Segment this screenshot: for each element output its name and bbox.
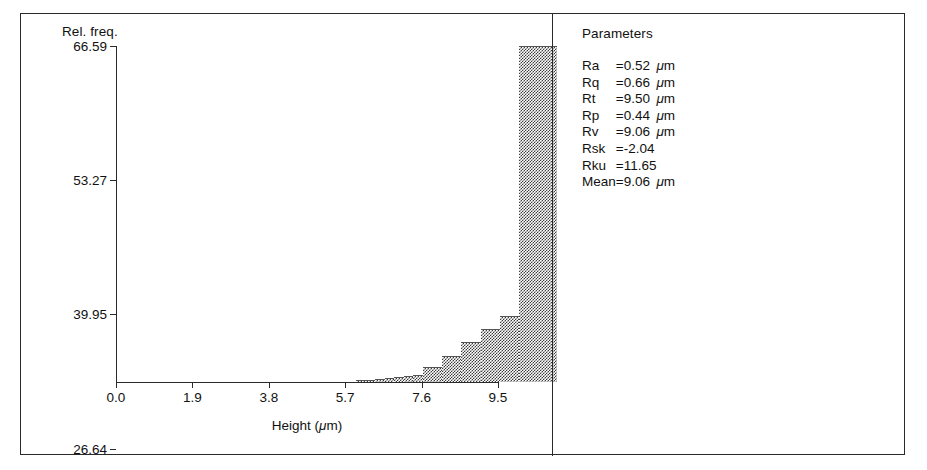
table-row: Rku = 11.65	[582, 158, 675, 175]
mu-symbol: μ	[656, 108, 663, 123]
param-value: 9.06	[624, 124, 657, 141]
x-axis-title-unit: m)	[326, 418, 342, 433]
histogram-bar	[404, 376, 414, 382]
table-row: Rt = 9.50 μm	[582, 91, 675, 108]
param-unit	[656, 158, 675, 175]
param-name: Rp	[582, 108, 616, 125]
histogram-chart-panel: Rel. freq. 66.59 53.27 39.95 26.64	[21, 14, 552, 456]
x-tick-mark	[498, 382, 499, 388]
x-axis-line	[116, 382, 499, 383]
param-equals: =	[616, 174, 624, 191]
table-row: Mean = 9.06 μm	[582, 174, 675, 191]
param-unit-text: m	[664, 75, 675, 90]
param-unit-text: m	[664, 108, 675, 123]
param-name: Mean	[582, 174, 616, 191]
param-name: Rv	[582, 124, 616, 141]
param-equals: =	[616, 141, 624, 158]
param-name: Rsk	[582, 141, 616, 158]
y-axis-title: Rel. freq.	[62, 24, 118, 39]
x-tick-mark	[269, 382, 270, 388]
y-tick-label: 39.95	[73, 307, 107, 322]
mu-symbol: μ	[656, 174, 663, 189]
y-tick-label: 26.64	[73, 441, 107, 456]
table-row: Rp = 0.44 μm	[582, 108, 675, 125]
param-unit: μm	[656, 91, 675, 108]
histogram-bar	[442, 356, 461, 382]
histogram-bar	[423, 367, 442, 382]
plot-area: 66.59 53.27 39.95 26.64 13.32 0.00	[116, 46, 498, 382]
param-equals: =	[616, 75, 624, 92]
param-unit: μm	[656, 124, 675, 141]
mu-symbol: μ	[656, 58, 663, 73]
y-tick-mark	[110, 314, 116, 315]
param-name: Ra	[582, 58, 616, 75]
parameters-table: Ra = 0.52 μm Rq = 0.66 μm Rt = 9.50 μm	[582, 58, 675, 191]
x-tick-label: 7.6	[412, 390, 431, 405]
mu-symbol: μ	[656, 91, 663, 106]
param-unit-text: m	[664, 91, 675, 106]
x-tick-label: 5.7	[336, 390, 355, 405]
param-unit-text: m	[664, 124, 675, 139]
histogram-bar	[413, 375, 423, 382]
y-tick-mark	[110, 46, 116, 47]
param-value: 0.52	[624, 58, 657, 75]
figure-frame: Rel. freq. 66.59 53.27 39.95 26.64	[20, 13, 905, 455]
histogram-bar	[461, 342, 480, 382]
histogram-bar	[356, 380, 366, 382]
x-tick-label: 1.9	[183, 390, 202, 405]
param-unit-text: m	[664, 174, 675, 189]
histogram-bar	[500, 316, 519, 382]
x-tick-mark	[345, 382, 346, 388]
param-name: Rq	[582, 75, 616, 92]
param-value: 0.66	[624, 75, 657, 92]
x-tick-mark	[192, 382, 193, 388]
table-row: Rq = 0.66 μm	[582, 75, 675, 92]
param-unit: μm	[656, 108, 675, 125]
table-row: Rv = 9.06 μm	[582, 124, 675, 141]
mu-symbol: μ	[656, 75, 663, 90]
mu-symbol: μ	[319, 418, 326, 433]
histogram-bars	[117, 46, 499, 382]
param-unit-text: m	[664, 58, 675, 73]
x-tick-label: 9.5	[489, 390, 508, 405]
param-name: Rt	[582, 91, 616, 108]
x-tick-label: 0.0	[107, 390, 126, 405]
param-unit: μm	[656, 58, 675, 75]
histogram-bar	[394, 377, 404, 382]
x-axis-title: Height (μm)	[272, 418, 342, 433]
param-equals: =	[616, 58, 624, 75]
x-tick-mark	[422, 382, 423, 388]
param-value: 9.06	[624, 174, 657, 191]
x-tick-mark	[116, 382, 117, 388]
mu-symbol: μ	[656, 124, 663, 139]
y-tick-label: 53.27	[73, 173, 107, 188]
histogram-bar	[375, 379, 385, 382]
param-equals: =	[616, 108, 624, 125]
param-unit: μm	[656, 174, 675, 191]
param-equals: =	[616, 124, 624, 141]
parameters-panel: Parameters Ra = 0.52 μm Rq = 0.66 μm Rt …	[553, 14, 906, 456]
param-value: -2.04	[624, 141, 657, 158]
parameters-heading: Parameters	[582, 26, 653, 41]
x-axis-title-text: Height (	[272, 418, 319, 433]
param-equals: =	[616, 91, 624, 108]
param-unit: μm	[656, 75, 675, 92]
y-tick-label: 66.59	[73, 39, 107, 54]
param-name: Rku	[582, 158, 616, 175]
histogram-bar	[481, 329, 500, 382]
param-unit	[656, 141, 675, 158]
y-tick-mark	[110, 180, 116, 181]
param-equals: =	[616, 158, 624, 175]
table-row: Ra = 0.52 μm	[582, 58, 675, 75]
table-row: Rsk = -2.04	[582, 141, 675, 158]
y-tick-mark	[110, 449, 116, 450]
param-value: 11.65	[624, 158, 657, 175]
histogram-bar	[385, 378, 395, 382]
param-value: 0.44	[624, 108, 657, 125]
histogram-bar	[365, 380, 375, 382]
param-value: 9.50	[624, 91, 657, 108]
x-tick-label: 3.8	[259, 390, 278, 405]
